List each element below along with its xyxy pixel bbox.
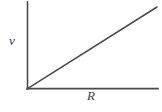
plot-area [0,0,162,112]
figure-root: v R [0,0,162,112]
y-axis-label: v [9,34,15,47]
x-axis-label: R [87,89,95,102]
plot-background [0,0,162,112]
